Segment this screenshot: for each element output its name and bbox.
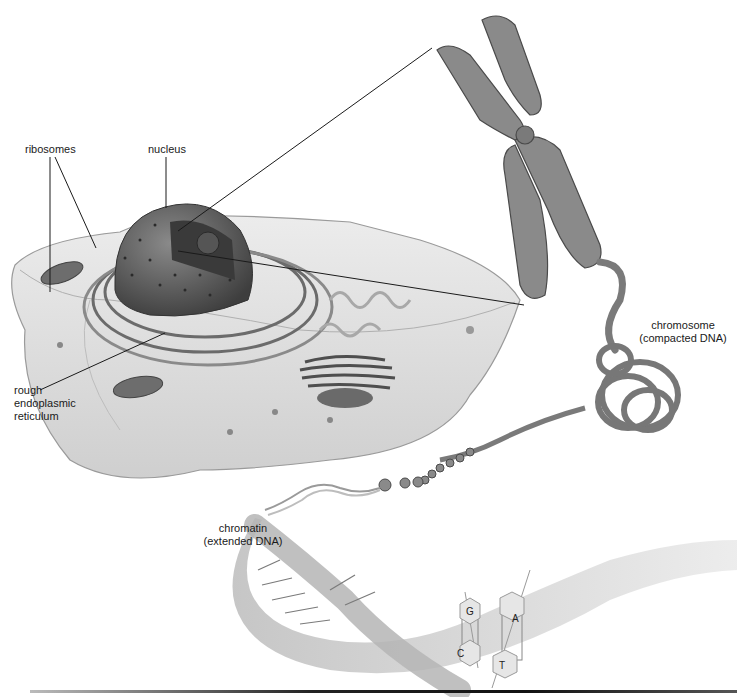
cell-to-dna-illustration: G C A T (0, 0, 737, 697)
chromosome-label-line2: (compacted DNA) (633, 332, 733, 345)
cell (12, 215, 520, 478)
coiled-chromatin (598, 346, 678, 430)
rough-er-label-line1: rough (14, 384, 76, 397)
ribosomes-label: ribosomes (25, 143, 76, 156)
chromatin-label-line2: (extended DNA) (193, 535, 293, 548)
base-a: A (512, 613, 519, 624)
rough-er-label-line3: reticulum (14, 410, 76, 423)
nucleus-label: nucleus (148, 143, 186, 156)
base-g: G (466, 606, 474, 617)
chromatin-fiber (600, 262, 623, 350)
dna-double-helix: G C A T (233, 518, 737, 690)
base-t: T (499, 660, 505, 671)
chromatin-label-line1: chromatin (193, 522, 293, 535)
chromosome-label: chromosome (compacted DNA) (633, 319, 733, 345)
base-c: C (457, 648, 464, 659)
chromosome-label-line1: chromosome (633, 319, 733, 332)
nucleosomes (379, 448, 474, 491)
rough-er-label: rough endoplasmic reticulum (14, 384, 76, 423)
chromatin-label: chromatin (extended DNA) (193, 522, 293, 548)
rough-er-label-line2: endoplasmic (14, 397, 76, 410)
bottom-rule (30, 690, 737, 693)
